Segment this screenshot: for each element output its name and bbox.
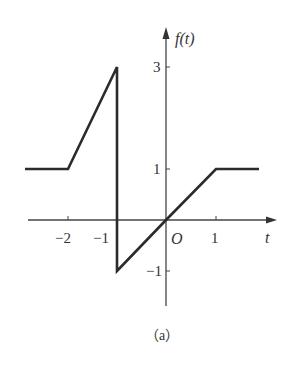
- x-axis-arrow-icon: [266, 217, 277, 224]
- y-tick-label-3: 3: [153, 60, 161, 75]
- y-axis-arrow-icon: [163, 27, 170, 39]
- figure-caption: （a）: [145, 329, 179, 343]
- y-axis: [163, 27, 171, 306]
- x-axis: [28, 216, 277, 224]
- y-axis-label: f(t): [175, 31, 195, 47]
- origin-label: O: [171, 231, 183, 247]
- x-tick-label-neg2: −2: [55, 231, 71, 246]
- y-tick-label-1: 1: [153, 162, 161, 177]
- x-tick-label-neg1: −1: [93, 231, 109, 246]
- chart-figure: [0, 0, 287, 366]
- x-axis-label: t: [265, 230, 269, 246]
- x-tick-label-1: 1: [211, 231, 219, 246]
- y-tick-label-neg1: −1: [146, 264, 162, 279]
